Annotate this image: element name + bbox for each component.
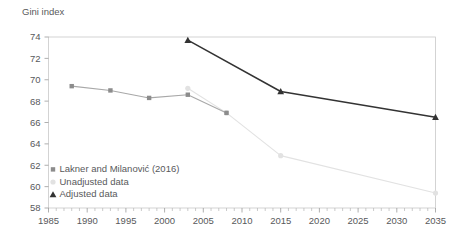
legend-item[interactable]: Lakner and Milanović (2016) — [51, 163, 180, 174]
x-tick-label: 2005 — [193, 215, 214, 226]
chart-legend: Lakner and Milanović (2016)Unadjusted da… — [50, 163, 180, 199]
x-tick-label: 2020 — [309, 215, 330, 226]
y-tick-label: 66 — [30, 117, 41, 128]
y-tick-label: 70 — [30, 74, 41, 85]
y-axis-title: Gini index — [22, 6, 64, 17]
data-point — [186, 93, 190, 97]
y-tick-label: 60 — [30, 181, 41, 192]
chart-canvas: Gini index 586062646668707274 1985199019… — [0, 0, 452, 237]
legend-label: Unadjusted data — [60, 176, 130, 187]
data-point — [185, 86, 190, 91]
y-tick-label: 72 — [30, 53, 41, 64]
x-tick-label: 2000 — [154, 215, 175, 226]
x-tick-label: 2035 — [425, 215, 446, 226]
y-tick-label: 68 — [30, 96, 41, 107]
legend-item[interactable]: Unadjusted data — [50, 176, 129, 187]
x-tick-label: 2030 — [386, 215, 407, 226]
data-point — [433, 190, 438, 195]
data-point — [278, 153, 283, 158]
x-tick-label: 2025 — [348, 215, 369, 226]
x-tick-label: 1995 — [115, 215, 136, 226]
gini-index-chart: Gini index 586062646668707274 1985199019… — [0, 0, 452, 237]
x-tick-label: 1990 — [77, 215, 98, 226]
x-tick-label: 2015 — [270, 215, 291, 226]
x-tick-label: 2010 — [231, 215, 252, 226]
legend-label: Lakner and Milanović (2016) — [60, 163, 180, 174]
series-triangle — [184, 37, 438, 120]
legend-label: Adjusted data — [60, 188, 119, 199]
data-point — [147, 96, 151, 100]
data-point — [70, 84, 74, 88]
series-circle — [185, 86, 438, 196]
data-point — [108, 88, 112, 92]
x-tick-label: 1985 — [38, 215, 59, 226]
legend-marker-square — [51, 167, 55, 171]
y-axis-ticks: 586062646668707274 — [30, 31, 49, 213]
legend-item[interactable]: Adjusted data — [50, 188, 119, 199]
y-axis-title-group: Gini index — [22, 6, 64, 17]
series-line — [188, 40, 436, 117]
legend-marker-triangle — [50, 191, 57, 197]
y-tick-label: 64 — [30, 138, 41, 149]
y-tick-label: 62 — [30, 160, 41, 171]
data-point — [224, 111, 228, 115]
data-point — [184, 37, 191, 43]
y-tick-label: 74 — [30, 31, 41, 42]
series-line — [188, 88, 436, 193]
y-tick-label: 58 — [30, 202, 41, 213]
x-axis-ticks: 1985199019952000200520102015202020252030… — [38, 208, 446, 226]
legend-marker-circle — [50, 179, 55, 184]
